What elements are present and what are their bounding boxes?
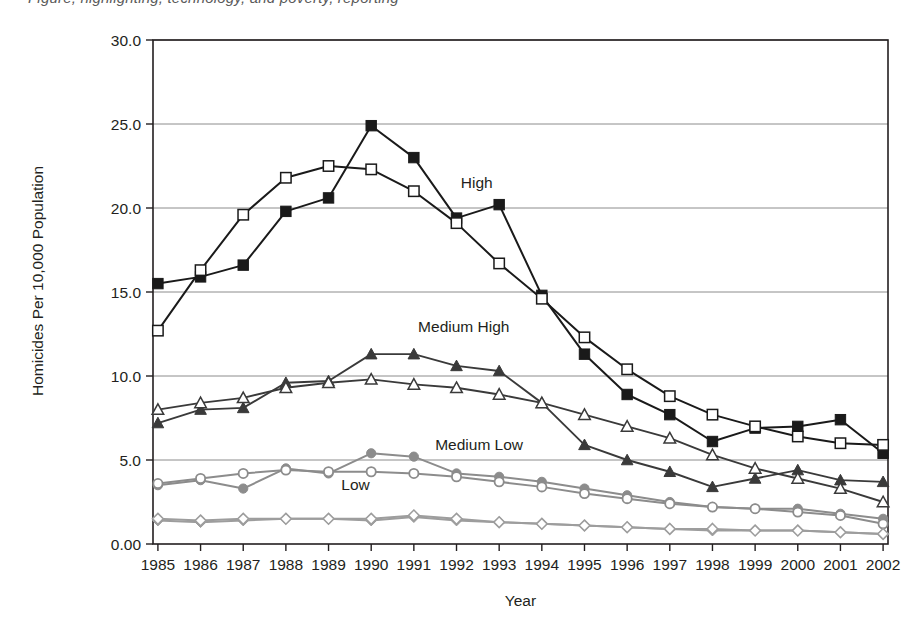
figure-container: Figure, highlighting, technology, and po… [0,0,905,625]
data-point-open-square [281,173,291,183]
data-point-open-circle [153,479,162,488]
series-annotations: HighMedium HighMedium LowLow [341,174,524,493]
x-tick-label: 1990 [354,556,389,573]
x-tick-label: 1988 [269,556,303,573]
data-point-open-circle [580,489,589,498]
data-point-open-circle [452,472,461,481]
data-point-open-square [579,332,589,342]
x-tick-label: 2000 [781,556,816,573]
series-line [158,453,883,519]
data-point-open-diamond [280,513,291,524]
x-tick-label: 1991 [397,556,431,573]
data-point-filled-circle [409,452,418,461]
data-point-open-diamond [622,522,633,533]
data-point-open-diamond [323,513,334,524]
data-point-open-square [451,218,461,228]
data-point-filled-square [409,152,419,162]
x-tick-label: 1994 [525,556,560,573]
data-point-filled-circle [367,449,376,458]
data-point-open-diamond [536,518,547,529]
data-point-open-square [494,258,504,268]
data-point-open-square [195,265,205,275]
data-point-open-square [323,161,333,171]
data-point-filled-square [366,120,376,130]
x-tick-label: 2001 [823,556,857,573]
data-point-open-circle [537,482,546,491]
series-label: Low [341,476,370,493]
data-point-open-circle [409,469,418,478]
data-point-filled-square [622,389,632,399]
data-point-open-square [835,438,845,448]
x-tick-label: 1986 [183,556,217,573]
x-tick-label: 1985 [141,556,175,573]
series-markers [152,120,889,539]
data-point-filled-square [707,436,717,446]
x-tick-label: 1992 [439,556,473,573]
data-point-open-circle [665,499,674,508]
data-point-open-square [153,325,163,335]
data-point-open-square [622,364,632,374]
data-point-open-circle [367,467,376,476]
y-axis-ticks: 0.005.010.015.020.025.030.0 [111,32,153,553]
data-point-open-circle [495,477,504,486]
series-label: High [461,174,493,191]
y-tick-label: 20.0 [111,200,142,217]
series-line [158,126,883,454]
y-tick-label: 30.0 [111,32,142,49]
data-point-filled-square [665,409,675,419]
y-tick-label: 5.0 [119,452,141,469]
series-label: Medium High [418,318,509,335]
data-point-open-square [537,294,547,304]
x-tick-label: 1989 [311,556,345,573]
data-point-open-square [366,164,376,174]
y-tick-label: 15.0 [111,284,142,301]
data-point-filled-square [323,193,333,203]
x-tick-label: 1987 [226,556,260,573]
data-point-open-square [665,391,675,401]
data-point-open-circle [708,502,717,511]
data-point-open-square [750,421,760,431]
data-point-open-circle [196,474,205,483]
data-point-open-diamond [835,527,846,538]
data-point-filled-circle [239,484,248,493]
data-point-open-circle [239,469,248,478]
data-point-open-triangle [707,449,719,460]
data-point-open-square [707,409,717,419]
y-tick-label: 10.0 [111,368,142,385]
data-point-open-circle [878,519,887,528]
data-point-open-circle [281,465,290,474]
data-point-open-diamond [878,529,889,540]
data-point-filled-square [281,206,291,216]
x-tick-label: 1997 [653,556,687,573]
data-point-open-diamond [792,525,803,536]
data-point-open-diamond [750,525,761,536]
data-point-filled-square [835,414,845,424]
data-point-open-diamond [664,523,675,534]
data-point-open-square [793,431,803,441]
series-label: Medium Low [435,436,524,453]
data-point-open-square [878,440,888,450]
series-line [158,354,883,487]
data-point-open-circle [623,494,632,503]
data-point-open-circle [751,504,760,513]
data-point-open-diamond [494,517,505,528]
data-point-open-square [238,210,248,220]
x-tick-label: 1996 [610,556,644,573]
x-tick-label: 2002 [866,556,900,573]
series-lines [158,126,883,534]
data-point-filled-square [793,421,803,431]
x-axis-ticks: 1985198619871988198919901991199219931994… [141,544,901,573]
data-point-open-circle [836,511,845,520]
x-tick-label: 1995 [567,556,601,573]
data-point-filled-square [238,260,248,270]
data-point-filled-square [153,278,163,288]
y-tick-label: 0.00 [111,536,142,553]
data-point-open-diamond [579,520,590,531]
series-line [158,515,883,533]
data-point-open-circle [324,467,333,476]
data-point-open-square [409,186,419,196]
x-tick-label: 1999 [738,556,772,573]
data-point-filled-square [494,199,504,209]
data-point-filled-square [579,349,589,359]
x-tick-label: 1998 [695,556,729,573]
